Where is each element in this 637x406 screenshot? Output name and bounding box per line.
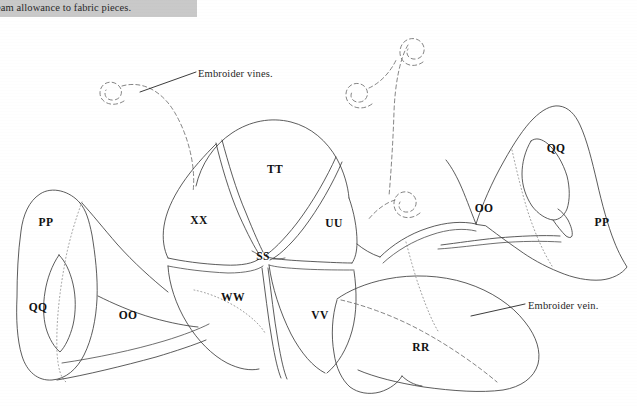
leader-line-vines [140,72,196,92]
piece-label-uu: UU [325,217,342,229]
right-leaf-assembly [438,106,627,280]
piece-label-oo-left: OO [119,309,138,321]
seam-tt-xx-b [222,140,263,252]
piece-outline-rr-bottom-notch [402,376,422,386]
piece-outline-uu-lower [267,257,352,263]
annotation-embroider-vines: Embroider vines. [198,68,273,79]
piece-label-ss: SS [256,250,270,262]
header-caption-text: eam allowance to fabric pieces. [0,0,206,15]
seam-uu-vv [269,265,354,270]
piece-outline-xx-lower [168,258,259,265]
piece-seam-link [383,229,476,263]
vine-stem-mid-lower [368,200,395,220]
piece-outline-qq-right-tip [553,209,572,238]
piece-outline-pp-right [476,106,627,280]
seam-tt-xx-a [216,143,259,254]
piece-outline-rr [337,276,539,392]
piece-seam-oo-left [62,324,209,363]
piece-label-vv: VV [311,309,328,321]
piece-outline-uu [349,198,357,263]
piece-outline-oo-left-mid [98,296,198,327]
seam-ww-vv-a [262,268,281,378]
piece-label-xx: XX [190,214,207,226]
vine-stem-left [122,84,194,192]
piece-seam-oo-right [438,241,561,249]
piece-label-tt: TT [267,163,283,175]
seam-xx-ww [168,266,263,273]
embroidery-vines-group [100,39,424,220]
piece-label-rr: RR [412,341,429,353]
piece-label-ww: WW [221,291,245,303]
piece-outline-vv-right [327,271,356,373]
piece-label-qq-right: QQ [547,142,566,154]
vine-curl-mid-lower [394,192,420,218]
piece-outline-xx [163,144,216,258]
center-right-link [380,222,476,331]
pattern-page: .ln { fill:none; stroke:#3f3f3f; stroke-… [0,0,637,406]
piece-outline-ww [168,266,259,370]
piece-label-oo-right: OO [475,202,494,214]
leader-lines-group [140,72,525,316]
placement-line-left [57,202,82,382]
placement-line-link [406,242,438,331]
seam-ww-vv-b [268,268,287,379]
piece-label-qq-left: QQ [29,301,48,313]
piece-label-pp-right: PP [595,216,610,228]
vine-curl-mid-left [346,83,372,107]
piece-outline-rr-bottom [332,300,402,393]
piece-outline-oo-right [446,160,476,224]
piece-outline-qq-left [44,255,76,352]
pattern-drawing: .ln { fill:none; stroke:#3f3f3f; stroke-… [0,0,637,406]
piece-outline-uu-right-edge [357,244,380,257]
rr-leaf-assembly [332,276,539,393]
vine-stem-mid-left [369,58,397,88]
piece-outline-link-upper [380,222,476,257]
vine-curl-top [400,39,424,66]
piece-outline-oo-left [82,203,168,292]
vine-curl-left [100,82,124,104]
piece-outline-tt [196,120,349,198]
placement-line-right [512,150,552,266]
center-flower-assembly [163,120,380,379]
annotation-embroider-vein: Embroider vein. [528,300,598,311]
piece-label-pp-left: PP [39,216,54,228]
leader-line-vein [471,304,525,316]
